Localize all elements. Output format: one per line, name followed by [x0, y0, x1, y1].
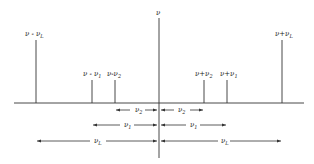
- spectrum-diagram: ν ν - νL ν - ν1 ν-ν2 ν+ν2 ν+ν1 ν+νL ν2 ν…: [0, 0, 314, 164]
- svg-text:νL: νL: [94, 137, 102, 146]
- svg-text:ν+ν2: ν+ν2: [195, 70, 213, 79]
- interval-nu1: ν1 ν1: [93, 121, 226, 130]
- svg-text:ν - ν1: ν - ν1: [83, 70, 102, 79]
- line-nu-minus-nuL: ν - νL: [25, 30, 44, 103]
- svg-text:ν+ν1: ν+ν1: [220, 70, 238, 79]
- svg-text:ν+νL: ν+νL: [275, 30, 293, 39]
- svg-text:ν-ν2: ν-ν2: [107, 70, 121, 79]
- line-nu-plus-nu2: ν+ν2: [195, 70, 213, 103]
- svg-text:ν2: ν2: [135, 106, 142, 115]
- line-nu-plus-nuL: ν+νL: [275, 30, 293, 103]
- svg-text:ν2: ν2: [178, 106, 185, 115]
- center-label: ν: [156, 9, 161, 17]
- line-nu-plus-nu1: ν+ν1: [220, 70, 238, 103]
- interval-nu2: ν2 ν2: [116, 106, 203, 115]
- svg-text:ν1: ν1: [124, 121, 131, 130]
- line-nu-minus-nu2: ν-ν2: [107, 70, 121, 103]
- line-nu-minus-nu1: ν - ν1: [83, 70, 102, 103]
- svg-text:νL: νL: [221, 137, 229, 146]
- svg-text:ν1: ν1: [190, 121, 197, 130]
- svg-text:ν - νL: ν - νL: [25, 30, 44, 39]
